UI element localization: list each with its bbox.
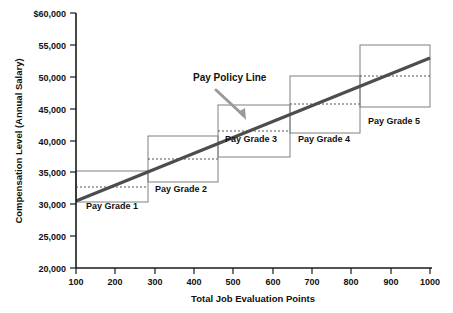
x-axis-title: Total Job Evaluation Points xyxy=(191,293,315,304)
y-tick-label: 55,000 xyxy=(38,41,66,51)
x-tick-label: 800 xyxy=(343,277,358,287)
y-tick-label: 35,000 xyxy=(38,168,66,178)
y-tick-label: 20,000 xyxy=(38,264,66,274)
x-tick-label: 100 xyxy=(68,277,83,287)
x-tick-label: 900 xyxy=(383,277,398,287)
y-tick-label: 30,000 xyxy=(38,200,66,210)
pay-grade-label-1: Pay Grade 1 xyxy=(86,201,138,211)
pay-grade-label-5: Pay Grade 5 xyxy=(368,116,420,126)
pay-grade-label-3: Pay Grade 3 xyxy=(225,134,277,144)
y-tick-label: 25,000 xyxy=(38,232,66,242)
y-tick-label: 50,000 xyxy=(38,73,66,83)
y-tick-label: $60,000 xyxy=(33,9,66,19)
x-tick-label: 400 xyxy=(186,277,201,287)
x-tick-label: 500 xyxy=(225,277,240,287)
x-tick-label: 1000 xyxy=(420,277,440,287)
pay-structure-chart: $60,000 55,000 50,000 45,000 40,000 35,0… xyxy=(0,0,453,313)
x-tick-label: 600 xyxy=(265,277,280,287)
x-tick-label: 200 xyxy=(107,277,122,287)
pay-grade-label-4: Pay Grade 4 xyxy=(298,134,350,144)
x-tick-label: 300 xyxy=(147,277,162,287)
y-tick-label: 45,000 xyxy=(38,105,66,115)
pay-grade-label-2: Pay Grade 2 xyxy=(155,184,207,194)
y-tick-label: 40,000 xyxy=(38,137,66,147)
x-tick-label: 700 xyxy=(304,277,319,287)
y-axis-tick-labels: $60,000 55,000 50,000 45,000 40,000 35,0… xyxy=(33,9,66,274)
pay-policy-line-label: Pay Policy Line xyxy=(193,72,267,83)
chart-svg: $60,000 55,000 50,000 45,000 40,000 35,0… xyxy=(0,0,453,313)
y-axis-title: Compensation Level (Annual Salary) xyxy=(13,58,24,223)
